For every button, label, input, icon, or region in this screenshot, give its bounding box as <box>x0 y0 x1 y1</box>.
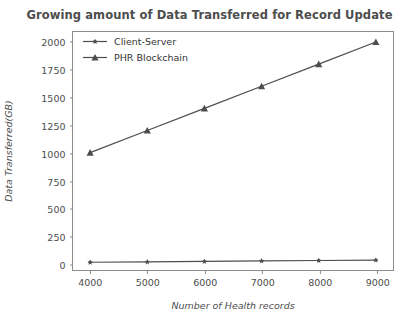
y-tick: 2000 <box>41 37 73 48</box>
y-tick-label: 1500 <box>41 92 69 103</box>
x-tick: 4000 <box>78 270 102 288</box>
y-tick-mark <box>70 125 74 126</box>
y-tick-label: 500 <box>47 204 69 215</box>
y-tick-label: 250 <box>47 232 69 243</box>
y-tick-mark <box>70 153 74 154</box>
y-tick-mark <box>70 69 74 70</box>
y-tick-label: 750 <box>47 176 69 187</box>
y-tick-mark <box>70 209 74 210</box>
legend-entry[interactable]: Client-Server <box>82 35 188 48</box>
x-axis-label: Number of Health records <box>72 300 394 311</box>
y-tick: 0 <box>59 260 73 271</box>
y-tick-mark <box>70 265 74 266</box>
legend-marker-star-icon <box>82 36 108 47</box>
y-tick-label: 1750 <box>41 64 69 75</box>
x-tick: 6000 <box>193 270 217 288</box>
legend-label: PHR Blockchain <box>114 52 188 63</box>
chart-legend: Client-ServerPHR Blockchain <box>82 35 188 64</box>
x-tick-label: 6000 <box>193 274 217 288</box>
x-tick: 5000 <box>136 270 160 288</box>
y-tick: 1500 <box>41 92 73 103</box>
y-tick-mark <box>70 181 74 182</box>
plot-lines <box>73 32 393 270</box>
y-tick: 500 <box>47 204 73 215</box>
y-tick-label: 0 <box>59 260 69 271</box>
legend-label: Client-Server <box>114 36 176 47</box>
y-tick-label: 1250 <box>41 120 69 131</box>
y-tick-label: 1000 <box>41 148 69 159</box>
y-tick-mark <box>70 237 74 238</box>
y-tick: 1000 <box>41 148 73 159</box>
y-tick-label: 2000 <box>41 37 69 48</box>
chart-title: Growing amount of Data Transferred for R… <box>0 8 419 22</box>
chart-figure: Growing amount of Data Transferred for R… <box>0 0 419 330</box>
y-tick: 250 <box>47 232 73 243</box>
legend-marker-triangle-icon <box>82 52 108 63</box>
y-tick: 750 <box>47 176 73 187</box>
x-tick-label: 7000 <box>251 274 275 288</box>
x-tick: 8000 <box>308 270 332 288</box>
y-tick: 1750 <box>41 64 73 75</box>
x-tick-label: 9000 <box>366 274 390 288</box>
y-tick-mark <box>70 42 74 43</box>
y-axis-label: Data Transferred(GB) <box>3 100 14 202</box>
y-tick: 1250 <box>41 120 73 131</box>
x-tick-label: 8000 <box>308 274 332 288</box>
x-tick-label: 5000 <box>136 274 160 288</box>
x-tick: 7000 <box>251 270 275 288</box>
legend-entry[interactable]: PHR Blockchain <box>82 51 188 64</box>
plot-area: 025050075010001250150017502000 400050006… <box>72 31 394 271</box>
x-tick: 9000 <box>366 270 390 288</box>
x-tick-label: 4000 <box>78 274 102 288</box>
y-tick-mark <box>70 97 74 98</box>
